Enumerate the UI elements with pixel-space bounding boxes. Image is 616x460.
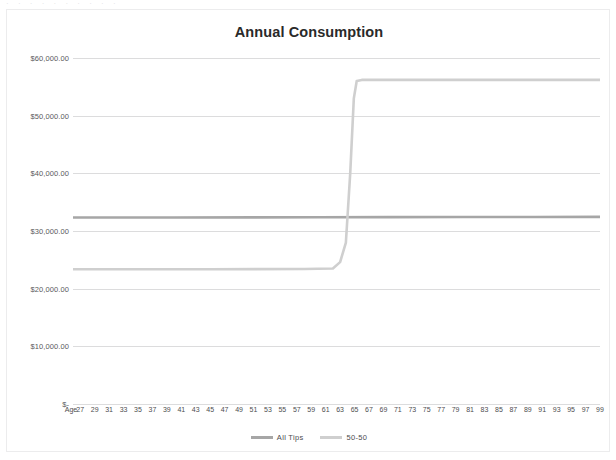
y-tick-label: $10,000.00: [30, 342, 69, 351]
x-tick-label: 71: [394, 406, 402, 413]
x-tick-label: 53: [264, 406, 272, 413]
x-tick-label: 69: [380, 406, 388, 413]
x-tick-label: 61: [322, 406, 330, 413]
x-tick-label: 45: [206, 406, 214, 413]
x-tick-label: 27: [76, 406, 84, 413]
clipped-top-text: · · · · · · · · · ·: [0, 0, 616, 7]
chart-title: Annual Consumption: [7, 24, 611, 40]
y-tick-label: $50,000.00: [30, 111, 69, 120]
x-tick-label: 29: [91, 406, 99, 413]
y-axis-tick-labels: $-$10,000.00$20,000.00$30,000.00$40,000.…: [7, 58, 69, 404]
y-tick-label: $60,000.00: [30, 54, 69, 63]
x-tick-label: 73: [408, 406, 416, 413]
gridline: [73, 404, 600, 405]
y-tick-label: $40,000.00: [30, 169, 69, 178]
x-tick-label: 67: [365, 406, 373, 413]
x-tick-label: 55: [278, 406, 286, 413]
x-tick-label: 95: [567, 406, 575, 413]
x-tick-label: 65: [351, 406, 359, 413]
x-tick-label: 49: [235, 406, 243, 413]
x-tick-label: 35: [134, 406, 142, 413]
x-tick-label: 33: [120, 406, 128, 413]
x-tick-label: 97: [582, 406, 590, 413]
x-tick-label: 79: [452, 406, 460, 413]
chart-legend: All Tips50-50: [7, 433, 611, 442]
x-tick-label: 85: [495, 406, 503, 413]
plot-area: [73, 58, 600, 404]
x-tick-label: 89: [524, 406, 532, 413]
legend-swatch-icon: [251, 436, 273, 439]
legend-entry[interactable]: 50-50: [320, 433, 367, 442]
series-lines: [73, 58, 600, 404]
series-line: [73, 80, 600, 269]
x-tick-label: 99: [596, 406, 604, 413]
x-tick-label: 91: [538, 406, 546, 413]
x-tick-label: 93: [553, 406, 561, 413]
x-tick-label: 31: [105, 406, 113, 413]
x-tick-label: 41: [177, 406, 185, 413]
legend-entry[interactable]: All Tips: [251, 433, 304, 442]
y-tick-label: $20,000.00: [30, 284, 69, 293]
x-tick-label: 57: [293, 406, 301, 413]
x-tick-label: 75: [423, 406, 431, 413]
x-tick-label: 81: [466, 406, 474, 413]
x-tick-label: 39: [163, 406, 171, 413]
x-tick-label: 83: [481, 406, 489, 413]
chart-screenshot: · · · · · · · · · · Annual Consumption $…: [0, 0, 616, 460]
x-tick-label: 77: [437, 406, 445, 413]
series-line: [73, 217, 600, 218]
legend-swatch-icon: [320, 436, 342, 439]
x-tick-label: 37: [149, 406, 157, 413]
legend-label: All Tips: [277, 433, 304, 442]
x-tick-label: 59: [307, 406, 315, 413]
x-tick-label: 51: [250, 406, 258, 413]
x-tick-label: 43: [192, 406, 200, 413]
chart-frame: Annual Consumption $-$10,000.00$20,000.0…: [6, 9, 610, 452]
x-tick-label: 87: [509, 406, 517, 413]
x-tick-label: 47: [221, 406, 229, 413]
legend-label: 50-50: [346, 433, 367, 442]
x-axis-tick-labels: Age2729313335373941434547495153555759616…: [43, 406, 609, 422]
x-tick-label: 63: [336, 406, 344, 413]
y-tick-label: $30,000.00: [30, 227, 69, 236]
